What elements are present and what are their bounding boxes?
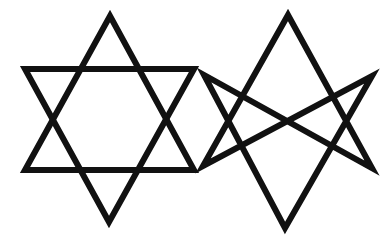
unicursal-hexagram-path: [203, 15, 372, 228]
unicursal-hexagram-icon: [203, 15, 372, 228]
hexagram-diagram: Hexagram (Star of David) Unicursal hexag…: [0, 0, 392, 245]
hexagram-downward-triangle: [25, 69, 194, 222]
diagram-svg: [0, 0, 392, 245]
hexagram-star-icon: [25, 16, 194, 222]
hexagram-upward-triangle: [25, 16, 194, 170]
